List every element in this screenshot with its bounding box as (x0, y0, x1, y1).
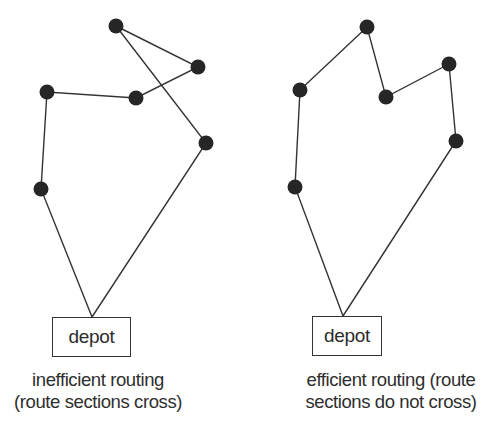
stop-node (34, 182, 49, 197)
caption-line: efficient routing (route (280, 369, 502, 391)
stop-node (199, 136, 214, 151)
stop-node (360, 20, 375, 35)
caption-inefficient: inefficient routing (route sections cros… (0, 369, 196, 413)
stop-node (40, 85, 55, 100)
caption-line: sections do not cross) (280, 391, 502, 413)
stop-node (293, 83, 308, 98)
stop-node (109, 19, 124, 34)
stop-node (191, 60, 206, 75)
depot-label: depot (324, 325, 370, 347)
efficient-route (288, 20, 464, 317)
stop-node (442, 57, 457, 72)
stop-node (449, 134, 464, 149)
inefficient-route (34, 19, 214, 318)
stop-node (379, 90, 394, 105)
caption-efficient: efficient routing (route sections do not… (280, 369, 502, 413)
depot-label: depot (68, 326, 114, 348)
efficient-route-path (295, 27, 456, 316)
depot-box-inefficient: depot (52, 317, 131, 357)
stop-node (288, 180, 303, 195)
caption-line: (route sections cross) (0, 391, 196, 413)
inefficient-route-path (41, 26, 206, 317)
depot-box-efficient: depot (312, 316, 382, 356)
caption-line: inefficient routing (0, 369, 196, 391)
stop-node (129, 91, 144, 106)
